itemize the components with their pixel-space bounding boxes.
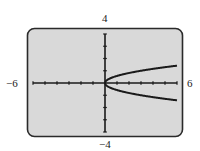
xmin-label: −6 <box>6 78 18 89</box>
ymin-label: −4 <box>99 139 111 150</box>
calculator-screen <box>0 0 200 151</box>
ymax-label: 4 <box>102 13 108 24</box>
xmax-label: 6 <box>187 78 193 89</box>
